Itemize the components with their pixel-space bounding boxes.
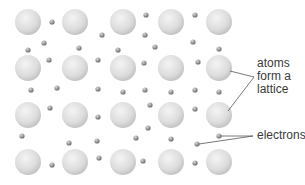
- electron: [192, 12, 197, 17]
- electron: [168, 89, 173, 94]
- electron: [192, 106, 197, 111]
- electron: [216, 133, 221, 138]
- atom: [110, 102, 136, 128]
- electron: [133, 135, 138, 140]
- electron: [147, 102, 152, 107]
- atoms-leader-line: [228, 77, 254, 111]
- atoms-label-line-3: lattice: [257, 83, 305, 96]
- electron: [99, 32, 104, 37]
- atom: [15, 9, 41, 35]
- electrons-leader-line: [199, 136, 253, 144]
- electron: [190, 39, 195, 44]
- electron: [54, 85, 59, 90]
- electron: [142, 32, 147, 37]
- atom: [15, 102, 41, 128]
- electron: [46, 57, 51, 62]
- atom: [110, 9, 136, 35]
- atom: [206, 149, 232, 175]
- atom: [158, 9, 184, 35]
- atoms-lattice-label: atoms form a lattice: [257, 57, 305, 96]
- atom: [158, 149, 184, 175]
- atom: [110, 55, 136, 81]
- electron: [145, 125, 150, 130]
- electron: [194, 141, 199, 146]
- atom: [110, 149, 136, 175]
- atoms-leader-line: [230, 71, 254, 77]
- electron: [216, 89, 221, 94]
- electron: [168, 136, 173, 141]
- electron: [96, 155, 101, 160]
- electron: [141, 60, 146, 65]
- electrons-label: electrons: [257, 129, 305, 142]
- atom: [62, 55, 88, 81]
- electron: [47, 105, 52, 110]
- atom: [206, 55, 232, 81]
- electron: [192, 160, 197, 165]
- electron-sea: [19, 12, 221, 167]
- electron: [19, 133, 24, 138]
- electron: [25, 47, 30, 52]
- electron: [94, 138, 99, 143]
- atom: [158, 55, 184, 81]
- electron: [28, 87, 33, 92]
- electron: [216, 46, 221, 51]
- electron: [192, 87, 197, 92]
- electron: [120, 89, 125, 94]
- electron: [49, 19, 54, 24]
- electron: [95, 114, 100, 119]
- electron: [95, 57, 100, 62]
- electron: [152, 44, 157, 49]
- electron: [115, 47, 120, 52]
- atom: [62, 9, 88, 35]
- atom: [62, 149, 88, 175]
- atom: [206, 102, 232, 128]
- atom: [62, 102, 88, 128]
- atom: [158, 102, 184, 128]
- electron: [66, 140, 71, 145]
- electron: [49, 162, 54, 167]
- electron: [41, 40, 46, 45]
- electron: [142, 87, 147, 92]
- atom: [206, 9, 232, 35]
- electron: [143, 12, 148, 17]
- atom: [15, 55, 41, 81]
- electron: [95, 86, 100, 91]
- electron: [76, 45, 81, 50]
- atom: [15, 149, 41, 175]
- electron: [195, 59, 200, 64]
- electron: [140, 158, 145, 163]
